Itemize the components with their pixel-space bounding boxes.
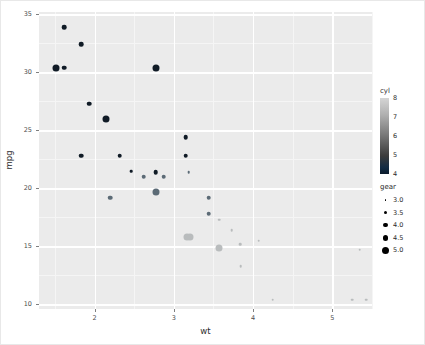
y-axis-title: mpg bbox=[4, 150, 14, 169]
colorbar-legend[interactable]: 87654 bbox=[378, 98, 424, 174]
data-point[interactable] bbox=[141, 174, 146, 179]
colorbar-tick bbox=[389, 136, 392, 137]
data-point[interactable] bbox=[62, 25, 67, 30]
colorbar-tick bbox=[389, 155, 392, 156]
data-point[interactable] bbox=[239, 243, 242, 246]
x-tick-label: 3 bbox=[172, 314, 176, 322]
data-point[interactable] bbox=[62, 65, 67, 70]
legend-title-gear: gear bbox=[380, 183, 424, 191]
gridline-major-x bbox=[95, 12, 96, 309]
data-point[interactable] bbox=[108, 195, 113, 200]
y-tick-mark bbox=[36, 188, 39, 189]
colorbar-tick-label: 7 bbox=[393, 113, 397, 121]
y-tick-label: 15 bbox=[24, 242, 32, 250]
data-point[interactable] bbox=[87, 101, 92, 106]
y-tick-label: 10 bbox=[24, 300, 32, 308]
size-legend-key-icon bbox=[378, 199, 393, 201]
size-legend[interactable]: gear 3.03.54.04.55.0 bbox=[378, 183, 424, 257]
size-legend-label: 3.0 bbox=[393, 196, 403, 204]
size-legend-key-icon bbox=[378, 247, 393, 254]
data-point[interactable] bbox=[358, 249, 361, 252]
data-point[interactable] bbox=[272, 298, 275, 301]
data-point[interactable] bbox=[153, 64, 160, 71]
data-point[interactable] bbox=[230, 229, 233, 232]
colorbar-tick-label: 6 bbox=[393, 132, 397, 140]
size-legend-dot bbox=[385, 199, 387, 201]
colorbar-tick-label: 8 bbox=[393, 94, 397, 102]
data-point[interactable] bbox=[215, 244, 222, 251]
size-legend-label: 5.0 bbox=[393, 246, 403, 254]
gridline-major-y bbox=[39, 72, 372, 73]
size-legend-label: 4.5 bbox=[393, 234, 403, 242]
data-point[interactable] bbox=[152, 188, 159, 195]
size-legend-dot bbox=[384, 211, 387, 214]
size-legend-row[interactable]: 3.5 bbox=[378, 207, 424, 220]
gridline-major-y bbox=[39, 188, 372, 189]
data-point[interactable] bbox=[183, 135, 188, 140]
data-point[interactable] bbox=[206, 195, 211, 200]
data-point[interactable] bbox=[239, 265, 242, 268]
size-legend-label: 4.0 bbox=[393, 221, 403, 229]
gridline-minor-y bbox=[39, 217, 372, 218]
gridline-minor-y bbox=[39, 43, 372, 44]
y-tick-mark bbox=[36, 72, 39, 73]
size-legend-dot bbox=[383, 235, 389, 241]
gridline-minor-x bbox=[134, 12, 135, 309]
data-point[interactable] bbox=[162, 174, 167, 179]
y-tick-mark bbox=[36, 304, 39, 305]
data-point[interactable] bbox=[188, 171, 191, 174]
colorbar-tick-label: 4 bbox=[393, 170, 397, 178]
gridline-major-x bbox=[332, 12, 333, 309]
x-tick-label: 4 bbox=[251, 314, 255, 322]
y-tick-label: 30 bbox=[24, 68, 32, 76]
data-point[interactable] bbox=[130, 170, 133, 173]
data-point[interactable] bbox=[118, 154, 123, 159]
gridline-minor-x bbox=[213, 12, 214, 309]
y-tick-mark bbox=[36, 246, 39, 247]
gridline-minor-y bbox=[39, 275, 372, 276]
x-tick-mark bbox=[95, 309, 96, 312]
gridline-major-y bbox=[39, 246, 372, 247]
y-tick-label: 35 bbox=[24, 10, 32, 18]
x-tick-mark bbox=[174, 309, 175, 312]
gridline-minor-y bbox=[39, 159, 372, 160]
gridline-minor-x bbox=[55, 12, 56, 309]
size-legend-row[interactable]: 5.0 bbox=[378, 244, 424, 257]
gridline-minor-x bbox=[293, 12, 294, 309]
x-tick-label: 2 bbox=[92, 314, 96, 322]
size-legend-row[interactable]: 4.0 bbox=[378, 219, 424, 232]
legend-title-cyl: cyl bbox=[380, 87, 424, 95]
data-point[interactable] bbox=[153, 170, 158, 175]
data-point[interactable] bbox=[365, 298, 368, 301]
data-point[interactable] bbox=[218, 218, 221, 221]
y-tick-mark bbox=[36, 130, 39, 131]
x-tick-mark bbox=[332, 309, 333, 312]
data-point[interactable] bbox=[206, 212, 211, 217]
data-point[interactable] bbox=[102, 115, 109, 122]
data-point[interactable] bbox=[184, 234, 191, 241]
gridline-major-x bbox=[174, 12, 175, 309]
data-point[interactable] bbox=[79, 154, 84, 159]
y-tick-label: 25 bbox=[24, 126, 32, 134]
legend-area: cyl 87654 gear 3.03.54.04.55.0 bbox=[378, 87, 424, 257]
data-point[interactable] bbox=[351, 298, 354, 301]
plot-panel[interactable] bbox=[39, 12, 372, 309]
size-legend-row[interactable]: 4.5 bbox=[378, 232, 424, 245]
x-axis-title: wt bbox=[39, 326, 372, 336]
size-legend-dot bbox=[383, 223, 387, 227]
colorbar-tick-label: 5 bbox=[393, 151, 397, 159]
chart-figure: 1015202530352345 wt mpg cyl 87654 gear 3… bbox=[0, 0, 425, 345]
data-point[interactable] bbox=[52, 64, 59, 71]
data-point[interactable] bbox=[79, 42, 84, 47]
colorbar-tick bbox=[389, 174, 392, 175]
data-point[interactable] bbox=[257, 239, 260, 242]
gridline-major-y bbox=[39, 130, 372, 131]
y-tick-label: 20 bbox=[24, 184, 32, 192]
colorbar-gradient bbox=[380, 98, 389, 174]
x-tick-label: 5 bbox=[330, 314, 334, 322]
x-tick-mark bbox=[253, 309, 254, 312]
data-point[interactable] bbox=[183, 154, 188, 159]
size-legend-dot bbox=[382, 247, 389, 254]
size-legend-key-icon bbox=[378, 235, 393, 241]
size-legend-row[interactable]: 3.0 bbox=[378, 194, 424, 207]
